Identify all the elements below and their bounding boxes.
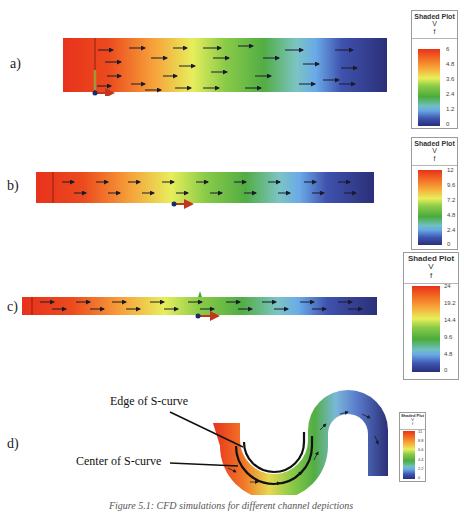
legend-tick: 0 bbox=[418, 475, 420, 480]
edge-of-s-curve-annotation: Edge of S-curve bbox=[110, 394, 188, 409]
legend-tick: 2.2 bbox=[418, 466, 424, 471]
legend-header: Shaded Plot V f bbox=[400, 413, 425, 430]
color-scale-bar bbox=[403, 431, 415, 479]
panel-d-legend: Shaded Plot V f 11 8.8 6.6 4.4 2.2 0 bbox=[399, 412, 426, 482]
figure-caption: Figure 5.1: CFD simulations for differen… bbox=[0, 500, 462, 511]
legend-tick: 4.4 bbox=[418, 457, 424, 462]
center-of-s-curve-annotation: Center of S-curve bbox=[76, 454, 161, 469]
legend-tick: 6.6 bbox=[418, 447, 424, 452]
legend-tick: 11 bbox=[418, 429, 422, 434]
legend-tick: 8.8 bbox=[418, 438, 424, 443]
annotation-leaders bbox=[0, 0, 462, 512]
